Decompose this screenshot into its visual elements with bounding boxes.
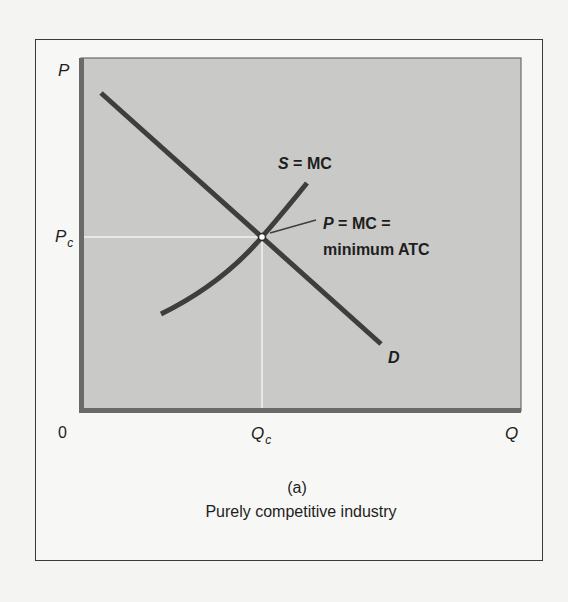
equilibrium-label-line1: P = MC = — [323, 216, 391, 232]
equilibrium-label-rest: = MC = — [334, 215, 391, 232]
y-axis-label: P — [58, 62, 69, 79]
equilibrium-point — [259, 234, 266, 241]
origin-label: 0 — [58, 425, 67, 441]
price-tick-main: P — [55, 227, 66, 246]
demand-curve-label-text: D — [388, 349, 400, 366]
quantity-tick-label: Qc — [251, 425, 271, 442]
quantity-tick-main: Q — [251, 424, 264, 443]
supply-curve-label-rest: = MC — [289, 155, 332, 172]
supply-curve-label: S = MC — [278, 156, 332, 172]
equilibrium-label-line2: minimum ATC — [323, 242, 430, 258]
figure-caption: Purely competitive industry — [0, 503, 568, 521]
equilibrium-label-italic: P — [323, 215, 334, 232]
panel-label-text: (a) — [287, 479, 307, 496]
price-tick-label: Pc — [55, 228, 73, 245]
quantity-tick-sub: c — [265, 433, 271, 447]
demand-curve-label: D — [388, 350, 400, 366]
figure-caption-text: Purely competitive industry — [205, 503, 396, 520]
x-axis-label: Q — [505, 425, 518, 442]
panel-label: (a) — [0, 479, 568, 497]
supply-curve-label-italic: S — [278, 155, 289, 172]
price-tick-sub: c — [67, 236, 73, 250]
plot-area — [81, 58, 521, 411]
